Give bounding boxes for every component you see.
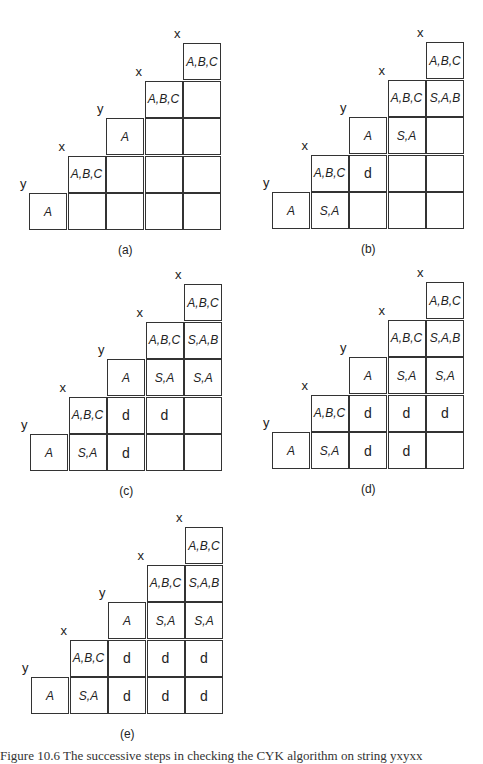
table-cell: A [107, 359, 145, 396]
table-cell: A,B,C [388, 320, 426, 357]
table-cell: d [185, 640, 223, 677]
table-cell: A [106, 118, 144, 155]
table-cell: A,B,C [69, 397, 107, 434]
table-cell: S,A [147, 602, 185, 639]
string-symbol-label: x [302, 138, 309, 153]
string-symbol-label: x [61, 623, 68, 638]
string-symbol-label: y [22, 660, 29, 675]
string-symbol-label: y [340, 100, 347, 115]
table-cell [184, 397, 222, 434]
subfigure-label: (c) [106, 484, 146, 498]
subfigure-label: (a) [105, 243, 145, 257]
table-cell [183, 156, 221, 193]
subfigure-label: (b) [348, 242, 388, 256]
table-cell: d [426, 395, 464, 432]
string-symbol-label: y [263, 175, 270, 190]
table-cell [145, 118, 183, 155]
table-cell: A,B,C [388, 80, 426, 117]
table-cell: A,B,C [311, 155, 349, 192]
table-cell: S,A,B [426, 320, 464, 357]
table-cell: d [349, 155, 387, 192]
table-cell: d [185, 677, 223, 714]
table-cell: S,A [185, 602, 223, 639]
table-cell [145, 193, 183, 230]
table-cell [68, 193, 106, 230]
table-cell: S,A [388, 357, 426, 394]
table-cell: S,A,B [426, 80, 464, 117]
table-cell: A,B,C [426, 42, 464, 79]
table-cell: A [349, 117, 387, 154]
table-cell [106, 156, 144, 193]
string-symbol-label: y [97, 101, 104, 116]
table-cell: A [349, 357, 387, 394]
string-symbol-label: x [379, 63, 386, 78]
table-cell [183, 81, 221, 118]
table-cell: S,A [426, 357, 464, 394]
table-cell [388, 155, 426, 192]
string-symbol-label: y [99, 585, 106, 600]
table-cell: A [29, 193, 67, 230]
table-cell: d [388, 395, 426, 432]
table-cell [183, 118, 221, 155]
table-cell [426, 117, 464, 154]
string-symbol-label: x [302, 378, 309, 393]
table-cell: S,A [184, 359, 222, 396]
table-cell: d [108, 640, 146, 677]
table-cell: S,A [388, 117, 426, 154]
string-symbol-label: y [20, 176, 27, 191]
table-cell: d [349, 395, 387, 432]
table-cell: d [147, 677, 185, 714]
table-cell: A [272, 432, 310, 469]
table-cell: d [349, 432, 387, 469]
table-cell [145, 156, 183, 193]
subfigure-label: (d) [348, 482, 388, 496]
table-cell: A [272, 192, 310, 229]
table-cell: A,B,C [147, 565, 185, 602]
string-symbol-label: y [21, 417, 28, 432]
table-cell: d [108, 677, 146, 714]
table-cell: d [146, 397, 184, 434]
string-symbol-label: x [176, 510, 183, 525]
table-cell: d [388, 432, 426, 469]
table-cell [183, 193, 221, 230]
table-cell [146, 434, 184, 471]
table-cell: d [107, 397, 145, 434]
subfigure-label: (e) [107, 727, 147, 741]
string-symbol-label: y [98, 342, 105, 357]
string-symbol-label: y [263, 415, 270, 430]
table-cell: d [107, 434, 145, 471]
table-cell [106, 193, 144, 230]
table-cell: A [108, 602, 146, 639]
table-cell: A,B,C [145, 81, 183, 118]
table-cell: A,B,C [184, 284, 222, 321]
table-cell: S,A,B [184, 322, 222, 359]
table-cell [388, 192, 426, 229]
figure-caption: Figure 10.6 The successive steps in chec… [0, 748, 483, 764]
string-symbol-label: x [136, 64, 143, 79]
table-cell: S,A [69, 434, 107, 471]
string-symbol-label: x [174, 26, 181, 41]
table-cell: A,B,C [426, 282, 464, 319]
string-symbol-label: x [417, 265, 424, 280]
table-cell: A,B,C [183, 43, 221, 80]
table-cell: A [30, 434, 68, 471]
table-cell: S,A [70, 677, 108, 714]
table-cell: S,A [311, 192, 349, 229]
table-cell: A,B,C [185, 527, 223, 564]
string-symbol-label: x [417, 25, 424, 40]
table-cell: A,B,C [146, 322, 184, 359]
table-cell: A,B,C [311, 395, 349, 432]
string-symbol-label: x [60, 380, 67, 395]
table-cell [426, 192, 464, 229]
string-symbol-label: x [138, 548, 145, 563]
string-symbol-label: x [59, 139, 66, 154]
table-cell: A [31, 677, 69, 714]
table-cell: S,A [311, 432, 349, 469]
string-symbol-label: y [340, 340, 347, 355]
table-cell: A,B,C [68, 156, 106, 193]
table-cell [426, 155, 464, 192]
table-cell: S,A [146, 359, 184, 396]
table-cell: A,B,C [70, 640, 108, 677]
table-cell [184, 434, 222, 471]
table-cell: d [147, 640, 185, 677]
